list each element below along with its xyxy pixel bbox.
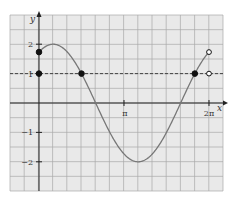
filled-point xyxy=(36,71,42,77)
filled-point xyxy=(36,49,42,55)
open-point xyxy=(207,50,212,55)
y-tick-label-neg2: −2 xyxy=(21,158,33,167)
x-tick-label-2pi: 2π xyxy=(204,109,214,118)
filled-point xyxy=(79,71,85,77)
y-tick-label-neg1: −1 xyxy=(21,128,33,137)
filled-point xyxy=(192,71,198,77)
y-tick-label-2: 2 xyxy=(28,40,33,49)
y-axis-label: y xyxy=(29,14,36,24)
x-axis-label: x xyxy=(217,103,222,113)
open-point xyxy=(207,71,212,76)
sine-chart: y x π 2π 2 1 −1 −2 xyxy=(0,0,232,200)
y-axis-arrow-icon xyxy=(37,11,42,17)
y-tick-label-1: 1 xyxy=(28,70,33,79)
x-axis-arrow-icon xyxy=(223,101,228,106)
x-tick-label-pi: π xyxy=(122,109,127,118)
